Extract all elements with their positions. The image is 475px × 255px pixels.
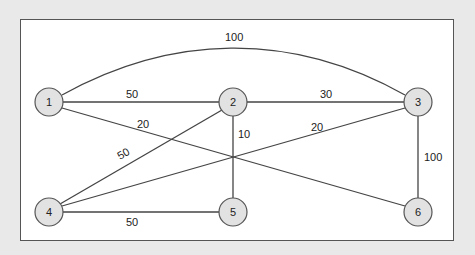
weight-2-3: 30 [320,88,332,100]
weight-4-5: 50 [126,216,138,228]
graph-canvas: 100 50 30 20 50 10 20 100 50 1 2 3 4 5 6 [0,0,475,255]
node-4: 4 [35,198,63,226]
weight-2-5: 10 [238,128,250,140]
weight-1-6: 20 [137,118,149,130]
weight-4-3: 20 [311,121,323,133]
node-4-label: 4 [46,206,52,218]
node-6: 6 [404,198,432,226]
weight-1-2: 50 [126,88,138,100]
node-2-label: 2 [230,96,236,108]
node-3-label: 3 [415,96,421,108]
node-3: 3 [404,88,432,116]
weight-2-4: 50 [115,145,132,162]
node-5: 5 [219,198,247,226]
node-1-label: 1 [46,96,52,108]
weight-1-3: 100 [225,31,243,43]
node-6-label: 6 [415,206,421,218]
node-5-label: 5 [230,206,236,218]
weight-3-6: 100 [424,151,442,163]
node-1: 1 [35,88,63,116]
node-2: 2 [219,88,247,116]
